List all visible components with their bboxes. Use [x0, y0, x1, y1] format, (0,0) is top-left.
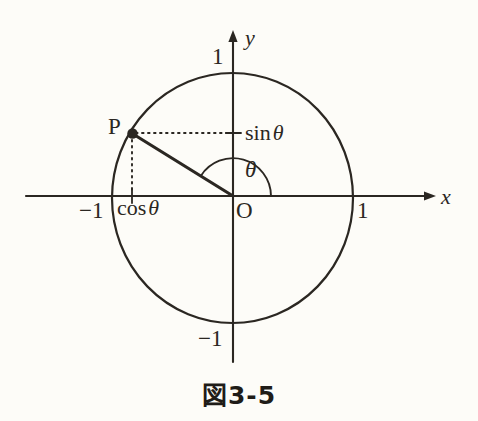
- figure-canvas: y x 1 −1 1 −1 P O sinθ cosθ θ 図3-5: [0, 0, 478, 421]
- y-tick-label-positive: 1: [212, 45, 224, 68]
- point-p-label: P: [108, 115, 121, 138]
- x-tick-label-positive: 1: [357, 199, 369, 222]
- y-axis-arrowhead: [228, 30, 237, 42]
- sin-theta-label: sinθ: [245, 122, 284, 144]
- x-tick-label-negative: −1: [79, 199, 103, 222]
- sin-function-name: sin: [245, 120, 271, 145]
- radius-segment-op: [133, 134, 233, 196]
- cos-function-name: cos: [117, 195, 146, 220]
- x-axis-label: x: [441, 186, 451, 208]
- y-axis-label: y: [245, 27, 255, 49]
- cos-theta-label: cosθ: [117, 197, 159, 219]
- cos-theta-variable: θ: [146, 195, 159, 220]
- y-tick-label-negative: −1: [198, 327, 222, 350]
- origin-label: O: [236, 199, 253, 222]
- figure-caption: 図3-5: [0, 375, 478, 411]
- x-axis-arrowhead: [424, 191, 436, 200]
- sin-theta-variable: θ: [271, 120, 284, 145]
- point-p-marker: [127, 128, 137, 138]
- angle-arc-theta: [201, 158, 271, 196]
- angle-theta-label: θ: [245, 158, 256, 181]
